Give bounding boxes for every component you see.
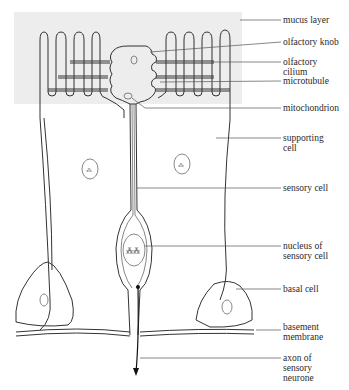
label-olfactory-cilium: olfactory cilium	[283, 57, 317, 77]
label-mitochondrion: mitochondrion	[283, 103, 339, 113]
svg-text:⁂: ⁂	[178, 162, 184, 168]
label-basal-cell: basal cell	[283, 284, 319, 294]
label-basement-membrane: basement membrane	[283, 322, 323, 342]
label-nucleus-of-sensory-cell: nucleus of sensory cell	[283, 241, 328, 261]
label-sensory-cell: sensory cell	[283, 183, 328, 193]
label-axon-of-sensory-neurone: axon of sensory neurone	[283, 353, 314, 383]
svg-text:⁂: ⁂	[86, 167, 92, 173]
label-mucus-layer: mucus layer	[283, 15, 329, 25]
label-supporting-cell: supporting cell	[283, 133, 324, 153]
label-olfactory-knob: olfactory knob	[283, 37, 339, 47]
svg-text:⁂⁂: ⁂⁂	[126, 247, 140, 255]
basement-membrane-line	[16, 329, 254, 332]
label-microtubule: microtubule	[283, 76, 329, 86]
